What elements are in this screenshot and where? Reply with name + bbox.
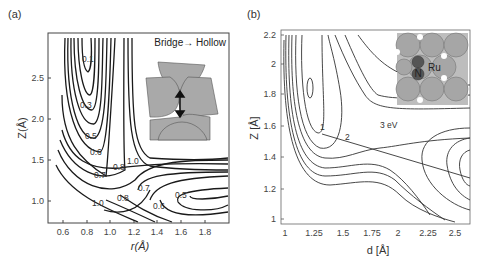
b-xtick: 2.25 — [419, 228, 437, 238]
a-ytick: 2.0 — [31, 114, 44, 124]
svg-text:3 eV: 3 eV — [380, 120, 398, 130]
figure: 2.5 2.0 1.5 1.0 0.6 0.8 1.0 1.2 1.4 1.6 … — [0, 0, 481, 268]
a-ytick: 1.0 — [31, 196, 44, 206]
a-ytick: 1.5 — [31, 155, 44, 165]
b-xlabel: d [Å] — [367, 244, 390, 256]
svg-text:N: N — [414, 68, 421, 79]
a-xtick: 1.2 — [128, 227, 141, 237]
b-xtick: 1 — [282, 228, 287, 238]
svg-text:0.8: 0.8 — [117, 193, 129, 203]
a-ylabel: Z(Å) — [16, 117, 28, 138]
svg-text:0.7: 0.7 — [94, 170, 106, 180]
svg-text:1.0: 1.0 — [92, 198, 104, 208]
a-inset-title: Bridge→ Hollow — [154, 37, 226, 48]
b-ytick: 2 — [271, 59, 276, 69]
a-xtick: 1.8 — [199, 227, 212, 237]
b-ytick: 1.4 — [263, 152, 276, 162]
a-ytick: 2.5 — [31, 73, 44, 83]
a-xtick: 1.6 — [175, 227, 188, 237]
svg-text:0.5: 0.5 — [175, 190, 187, 200]
b-xtick: 2 — [395, 228, 400, 238]
b-xtick: 2.5 — [449, 228, 462, 238]
panel-b-plot: 2.2 2 1.8 1.6 1.4 1.2 1 1 1.25 1.5 1.75 … — [248, 30, 470, 256]
b-inset: N Ru — [394, 33, 468, 105]
svg-text:0.5: 0.5 — [85, 131, 97, 141]
panel-a-plot: 2.5 2.0 1.5 1.0 0.6 0.8 1.0 1.2 1.4 1.6 … — [16, 33, 229, 252]
svg-text:2: 2 — [345, 132, 350, 142]
svg-text:0.7: 0.7 — [138, 183, 150, 193]
b-ytick: 1 — [271, 214, 276, 224]
b-xtick: 1.25 — [305, 228, 323, 238]
b-ytick: 2.2 — [263, 30, 276, 40]
b-ytick: 1.8 — [263, 89, 276, 99]
b-xtick: 1.75 — [363, 228, 381, 238]
a-xtick: 0.6 — [57, 227, 70, 237]
n-atom-top — [412, 56, 424, 68]
a-xtick: 1.0 — [104, 227, 117, 237]
svg-text:0.3: 0.3 — [80, 100, 92, 110]
b-ylabel: Z [Å] — [248, 116, 260, 139]
b-ytick: 1.6 — [263, 121, 276, 131]
a-xtick: 1.4 — [151, 227, 164, 237]
a-xlabel: r(Å) — [131, 240, 150, 252]
svg-text:0.1: 0.1 — [82, 54, 94, 64]
b-xtick: 1.5 — [337, 228, 350, 238]
svg-text:0.8: 0.8 — [113, 162, 125, 172]
svg-text:1.0: 1.0 — [127, 156, 139, 166]
svg-text:1: 1 — [320, 122, 325, 132]
svg-text:0.6: 0.6 — [90, 147, 102, 157]
svg-text:Ru: Ru — [428, 62, 441, 73]
a-xtick: 0.8 — [81, 227, 94, 237]
svg-text:0.6: 0.6 — [153, 201, 165, 211]
b-ytick: 1.2 — [263, 184, 276, 194]
